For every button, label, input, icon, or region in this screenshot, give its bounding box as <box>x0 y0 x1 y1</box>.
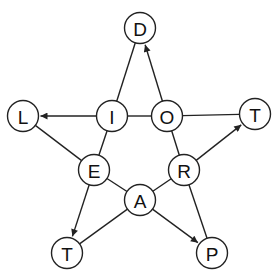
node-l: L <box>8 101 39 132</box>
nodes-group: DLIOTERATP <box>8 13 271 269</box>
node-r: R <box>169 155 200 186</box>
edge-a-t2 <box>80 209 128 244</box>
node-label: T <box>61 244 73 265</box>
node-label: R <box>177 161 191 182</box>
node-label: T <box>249 105 261 126</box>
arrow-a-p <box>152 209 197 242</box>
node-p: P <box>197 238 228 269</box>
edge-o-t1 <box>182 114 239 115</box>
node-t1: T <box>240 99 271 130</box>
node-label: P <box>206 244 219 265</box>
edge-i-d <box>117 43 136 101</box>
star-letter-graph: DLIOTERATP <box>0 0 278 275</box>
node-e: E <box>79 155 110 186</box>
node-i: I <box>97 101 128 132</box>
node-label: O <box>160 107 175 128</box>
edge-i-e <box>99 131 107 156</box>
edge-e-a <box>107 178 127 191</box>
node-label: E <box>88 161 101 182</box>
node-label: L <box>18 107 29 128</box>
arrow-o-d <box>145 45 162 101</box>
arrow-r-t1 <box>196 125 241 161</box>
node-label: I <box>109 107 114 128</box>
node-o: O <box>152 101 183 132</box>
node-label: D <box>133 19 147 40</box>
edge-a-r <box>153 179 171 192</box>
node-label: A <box>134 191 147 212</box>
node-d: D <box>125 13 156 44</box>
edge-l-e <box>35 125 81 160</box>
edge-o-r <box>172 131 180 155</box>
edge-r-p <box>189 185 207 239</box>
node-t2: T <box>52 238 83 269</box>
node-a: A <box>125 185 156 216</box>
arrow-e-t2 <box>72 185 89 237</box>
